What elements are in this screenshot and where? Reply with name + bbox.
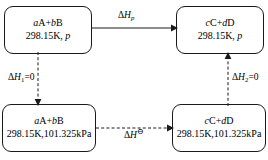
condition-label: 298.15K, p xyxy=(26,30,71,43)
pressure-value: 101.325kPa xyxy=(44,128,92,139)
condition-label: 298.15K,101.325kPa xyxy=(7,128,92,141)
enthalpy-symbol: H xyxy=(238,72,245,82)
species-D: D xyxy=(226,115,233,126)
species-D: D xyxy=(227,17,234,28)
species-label: cC+dD xyxy=(206,17,235,30)
temperature-value: 298.15K xyxy=(7,128,42,139)
species-label: aA+bB xyxy=(34,115,64,128)
hess-cycle-diagram: aA+bB 298.15K, p cC+dD 298.15K, p aA+bB … xyxy=(0,0,268,160)
state-box-products-pressure-p: cC+dD 298.15K, p xyxy=(176,6,264,54)
subscript-p: p xyxy=(131,14,134,21)
species-label: aA+bB xyxy=(33,17,63,30)
arrow-label-enthalpy-pressure-p: ΔHp xyxy=(118,11,134,21)
enthalpy-symbol: H xyxy=(124,10,131,20)
pressure-value: 101.325kPa xyxy=(214,128,262,139)
pressure-value: p xyxy=(65,30,70,41)
temperature-value: 298.15K xyxy=(26,30,61,41)
state-box-reactants-pressure-p: aA+bB 298.15K, p xyxy=(4,6,92,54)
subscript-2: 2 xyxy=(245,76,248,83)
condition-label: 298.15K, p xyxy=(198,30,243,43)
equals-zero: =0 xyxy=(248,72,258,82)
plimsoll-icon: ⊖ xyxy=(137,127,144,136)
subscript-1: 1 xyxy=(21,76,24,83)
arrow-top-solid-right xyxy=(92,22,178,34)
pressure-value: p xyxy=(237,30,242,41)
arrow-label-standard-enthalpy: ΔH⊖ xyxy=(124,131,144,141)
species-B: B xyxy=(57,115,64,126)
state-box-reactants-standard-pressure: aA+bB 298.15K,101.325kPa xyxy=(2,104,96,152)
arrow-label-enthalpy-step-2: ΔH2=0 xyxy=(232,73,259,83)
enthalpy-symbol: H xyxy=(14,72,21,82)
equals-zero: =0 xyxy=(24,72,34,82)
species-C: C xyxy=(210,17,217,28)
temperature-value: 298.15K xyxy=(177,128,212,139)
temperature-value: 298.15K xyxy=(198,30,233,41)
state-box-products-standard-pressure: cC+dD 298.15K,101.325kPa xyxy=(172,104,266,152)
species-B: B xyxy=(56,17,63,28)
condition-label: 298.15K,101.325kPa xyxy=(177,128,262,141)
enthalpy-symbol: H xyxy=(130,130,137,140)
species-C: C xyxy=(209,115,216,126)
arrow-label-enthalpy-step-1: ΔH1=0 xyxy=(8,73,35,83)
species-label: cC+dD xyxy=(205,115,234,128)
